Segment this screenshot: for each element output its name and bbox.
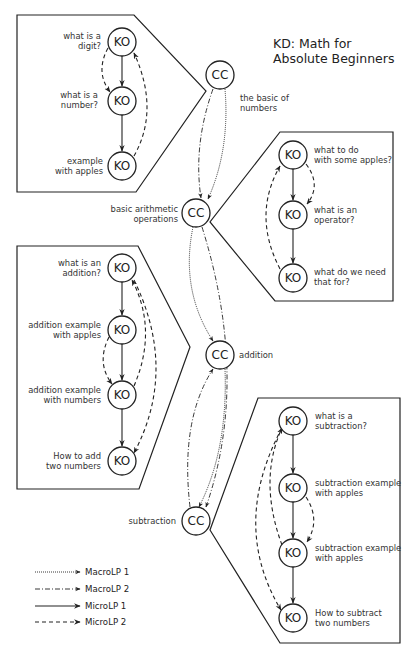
svg-text:KO: KO (114, 454, 131, 468)
svg-text:KO: KO (114, 159, 131, 173)
ko-node-add-two[interactable]: KO (108, 447, 136, 475)
legend-label: MicroLP 1 (85, 601, 126, 611)
svg-text:KO: KO (285, 208, 302, 222)
cc-caption: numbers (240, 103, 277, 113)
svg-text:KO: KO (114, 94, 131, 108)
ko-caption: what to do (314, 145, 359, 155)
svg-text:KO: KO (285, 271, 302, 285)
cc-node-addition[interactable]: CC (206, 341, 234, 369)
svg-text:KO: KO (285, 546, 302, 560)
ko-caption: what is a (63, 31, 101, 41)
cc-caption: basic arithmetic (111, 204, 179, 214)
svg-text:KO: KO (114, 35, 131, 49)
ko-caption: addition example (28, 320, 101, 330)
ko-caption: two numbers (315, 618, 370, 628)
ko-caption: what is a (315, 411, 353, 421)
ko-node-subtraction-apples-2[interactable]: KO (279, 539, 307, 567)
legend-label: MicroLP 2 (85, 617, 126, 627)
ko-node-number[interactable]: KO (108, 87, 136, 115)
edge-micro2 (266, 166, 280, 269)
edge-macro1-cc2-cc3 (189, 227, 213, 341)
ko-node-subtraction-apples-1[interactable]: KO (279, 474, 307, 502)
edge-micro2 (256, 428, 282, 610)
ko-caption: How to subtract (315, 608, 382, 618)
ko-caption: subtraction example (315, 543, 401, 553)
ko-caption: operator? (314, 215, 354, 225)
ko-node-need-for[interactable]: KO (279, 264, 307, 292)
knowledge-diagram: KD: Math for Absolute Beginners KO KO KO… (0, 0, 413, 653)
ko-caption: what is an (58, 258, 101, 268)
svg-text:KO: KO (285, 481, 302, 495)
edge-macro2-cc1-cc2 (199, 89, 213, 198)
cc-node-arithmetic[interactable]: CC (182, 199, 210, 227)
ko-node-apples-todo[interactable]: KO (279, 141, 307, 169)
ko-caption: what is a (60, 90, 98, 100)
edge-macro2-cc4-cc3 (188, 369, 213, 507)
ko-node-subtraction[interactable]: KO (279, 407, 307, 435)
ko-caption: addition? (62, 268, 101, 278)
edge-micro2 (306, 497, 314, 542)
ko-caption: addition example (28, 385, 101, 395)
cc-caption: operations (133, 214, 178, 224)
legend-label: MacroLP 2 (85, 584, 129, 594)
ko-node-operator[interactable]: KO (279, 201, 307, 229)
cc-caption: subtraction (129, 516, 177, 526)
ko-caption: with apples (315, 488, 363, 498)
svg-text:CC: CC (212, 68, 229, 82)
title-line-1: KD: Math for (273, 36, 352, 51)
cc-caption: the basic of (240, 93, 290, 103)
legend: MacroLP 1 MacroLP 2 MicroLP 1 MicroLP 2 (35, 567, 129, 627)
svg-text:KO: KO (114, 323, 131, 337)
title-line-2: Absolute Beginners (273, 51, 394, 66)
cc-node-basic-numbers[interactable]: CC (206, 61, 234, 89)
edge-micro2 (306, 164, 314, 204)
edge-micro2 (103, 337, 112, 384)
ko-caption: two numbers (46, 461, 101, 471)
diagram-title: KD: Math for Absolute Beginners (273, 36, 394, 66)
ko-caption: subtraction? (315, 421, 367, 431)
ko-caption: digit? (78, 41, 101, 51)
ko-caption: subtraction example (315, 478, 401, 488)
ko-node-addition[interactable]: KO (108, 254, 136, 282)
svg-text:KO: KO (285, 148, 302, 162)
ko-node-subtract-two[interactable]: KO (279, 604, 307, 632)
ko-node-addition-apples[interactable]: KO (108, 316, 136, 344)
cc-node-subtraction[interactable]: CC (182, 507, 210, 535)
ko-caption: with some apples? (314, 155, 392, 165)
ko-node-example-apples[interactable]: KO (108, 152, 136, 180)
svg-text:KO: KO (285, 414, 302, 428)
ko-caption: with apples (315, 553, 363, 563)
ko-caption: example (67, 156, 103, 166)
ko-caption: with numbers (44, 395, 101, 405)
ko-caption: that for? (314, 277, 350, 287)
svg-text:KO: KO (114, 388, 131, 402)
ko-caption: How to add (53, 451, 101, 461)
edge-micro2 (134, 280, 156, 453)
svg-text:CC: CC (188, 206, 205, 220)
legend-label: MacroLP 1 (85, 567, 129, 577)
ko-node-digit[interactable]: KO (108, 28, 136, 56)
cluster-box-3 (17, 246, 190, 489)
ko-caption: with apples (53, 330, 101, 340)
svg-text:KO: KO (285, 611, 302, 625)
ko-caption: number? (61, 100, 98, 110)
ko-caption: with apples (55, 166, 103, 176)
svg-text:CC: CC (212, 348, 229, 362)
ko-caption: what is an (314, 205, 357, 215)
cc-caption: addition (239, 350, 273, 360)
cluster-box-4 (210, 398, 400, 643)
svg-text:CC: CC (188, 514, 205, 528)
edge-micro2 (102, 48, 110, 92)
edge-macro1-cc1-cc2 (208, 89, 226, 199)
ko-node-addition-numbers[interactable]: KO (108, 381, 136, 409)
svg-text:KO: KO (114, 261, 131, 275)
ko-caption: what do we need (314, 267, 386, 277)
